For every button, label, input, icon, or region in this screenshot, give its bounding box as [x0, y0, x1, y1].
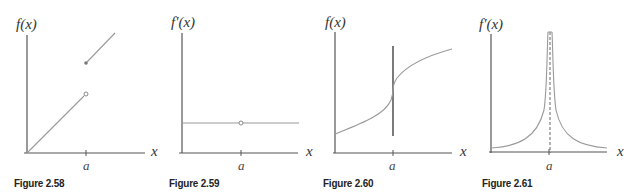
lower-line [27, 96, 84, 153]
figure-2-59: f′(x) x a Figure 2.59 [155, 0, 315, 196]
x-axis-label: x [306, 143, 313, 160]
upper-line [87, 33, 115, 62]
curve-right [552, 32, 607, 148]
figure-caption: Figure 2.58 [14, 177, 64, 189]
figure-2-58: f(x) x a Figure 2.58 [0, 0, 160, 196]
x-axis-label: x [617, 143, 624, 160]
tick-label-a: a [546, 158, 553, 174]
figure-2-61: f′(x) x a Figure 2.61 [474, 0, 634, 196]
figure-caption: Figure 2.60 [323, 177, 373, 189]
figure-2-60: f(x) x a Figure 2.60 [315, 0, 475, 196]
y-axis-label: f(x) [16, 16, 37, 33]
open-circle [84, 92, 88, 96]
y-axis-label: f′(x) [171, 14, 195, 31]
figure-caption: Figure 2.59 [169, 177, 219, 189]
tick-label-a: a [389, 158, 396, 174]
x-axis-label: x [460, 143, 467, 160]
tick-label-a: a [83, 158, 90, 174]
curve-left [491, 32, 548, 148]
open-circle [239, 121, 243, 125]
y-axis-label: f(x) [325, 14, 346, 31]
figure-caption: Figure 2.61 [482, 177, 532, 189]
y-axis-label: f′(x) [479, 16, 503, 33]
tick-label-a: a [238, 158, 245, 174]
